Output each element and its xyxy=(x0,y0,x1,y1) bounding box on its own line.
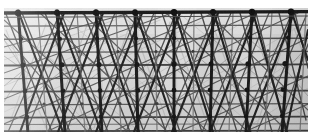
image-viewport: Steel space frame truss with vertical co… xyxy=(0,0,322,140)
space-frame-photograph xyxy=(0,0,322,140)
photograph-stage xyxy=(0,0,322,140)
film-grain xyxy=(4,8,308,132)
photo-content xyxy=(4,8,322,133)
